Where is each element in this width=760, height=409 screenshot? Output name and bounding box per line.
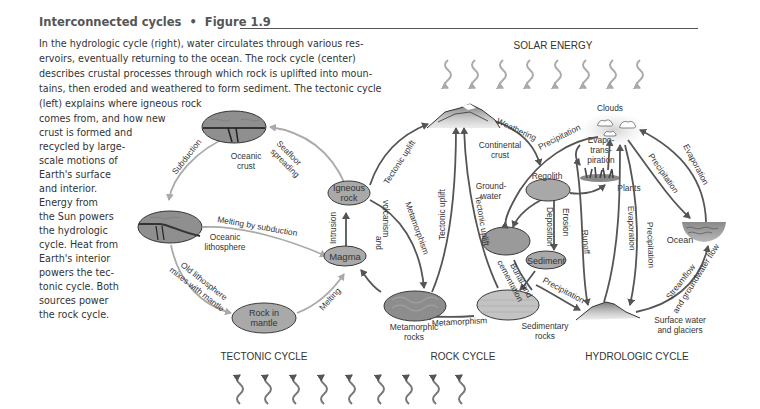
rock-in-mantle-label: mantle <box>250 318 277 328</box>
igneous-rock-label: rock <box>340 193 358 203</box>
solar-wave-arrow-icon <box>610 60 616 88</box>
hydrologic-cycle-label: HYDROLOGIC CYCLE <box>585 351 689 362</box>
groundwater-arrow <box>513 197 547 227</box>
tectonic-uplift-label-2: Tectonic uplift <box>437 189 447 240</box>
internal-heat-arrows <box>237 375 465 404</box>
solar-wave-arrow-icon <box>637 60 643 88</box>
ocean-label: Ocean <box>667 235 694 245</box>
continental-crust-label: crust <box>491 150 510 160</box>
intrusion-and-label: and <box>374 236 384 250</box>
runoff-label: Runoff <box>580 229 592 255</box>
cycles-diagram: SOLAR ENERGY TECTONIC CYCLE ROCK CYCLE H… <box>0 0 760 409</box>
subduction-label: Subduction <box>170 137 204 176</box>
rock-cycle-label: ROCK CYCLE <box>430 351 495 362</box>
tectonic-uplift-label: Tectonic uplift <box>381 138 417 187</box>
heat-wave-arrow-icon <box>237 375 243 404</box>
sediment-label: Sediment <box>527 256 566 266</box>
regolith-to-plants-arrow <box>570 185 605 194</box>
evaporation-arrow-ocean <box>640 130 706 222</box>
oceanic-crust-node <box>202 111 266 143</box>
magma-label: Magma <box>329 251 361 262</box>
clouds-label: Clouds <box>597 103 623 113</box>
precipitation-label-surface: Precipitation <box>645 222 657 269</box>
evaporation-arrow-surface <box>604 145 620 302</box>
heat-wave-arrow-icon <box>265 375 271 404</box>
heat-wave-arrow-icon <box>321 375 327 404</box>
solar-energy-arrows <box>445 60 643 88</box>
solar-wave-arrow-icon <box>527 60 533 88</box>
erosion-label: Erosion <box>561 208 571 237</box>
metamorphic-rocks-node <box>384 291 446 321</box>
solar-wave-arrow-icon <box>555 60 561 88</box>
surface-water-label: and glaciers <box>657 325 702 335</box>
oceanic-crust-label: crust <box>237 161 256 171</box>
continental-crust-label: Continental <box>479 140 522 150</box>
metamorphic-rocks-label: rocks <box>404 332 424 342</box>
solar-wave-arrow-icon <box>472 60 478 88</box>
sedimentary-rocks-label: rocks <box>535 331 555 341</box>
metamorphism-label-upper: Metamorphism <box>403 200 431 255</box>
precipitation-label-top: Precipitation <box>536 122 582 152</box>
intrusion-label: Intrusion <box>328 212 338 244</box>
oceanic-lithosphere-node <box>138 211 202 243</box>
regolith-node <box>526 179 570 201</box>
igneous-rock-label: Igneous <box>333 183 366 193</box>
metamorphic-to-magma-arrow <box>361 270 381 292</box>
rock-in-mantle-label: Rock in <box>249 308 279 318</box>
solar-energy-label: SOLAR ENERGY <box>514 40 593 51</box>
heat-wave-arrow-icon <box>406 375 412 404</box>
plants-label: Plants <box>617 183 640 193</box>
precipitation-arrow-ocean <box>628 140 690 218</box>
plants-icon <box>580 167 620 182</box>
heat-wave-arrow-icon <box>349 375 355 404</box>
oceanic-lithosphere-label: lithosphere <box>205 242 246 252</box>
metamorphism-label-lower: Metamorphism <box>432 315 488 328</box>
solar-wave-arrow-icon <box>445 60 451 88</box>
groundwater-label: Ground- <box>476 181 507 191</box>
heat-wave-arrow-icon <box>378 375 384 404</box>
weathering-label: Weathering <box>495 116 538 143</box>
oceanic-crust-label: Oceanic <box>231 151 262 161</box>
evapotranspiration-label: piration <box>587 155 615 165</box>
oceanic-lithosphere-label: Oceanic <box>210 232 241 242</box>
evaporation-label-surface: Evaporation <box>626 206 638 251</box>
heat-wave-arrow-icon <box>293 375 299 404</box>
deposition-label: Deposition <box>545 207 555 247</box>
solar-wave-arrow-icon <box>583 60 589 88</box>
heat-wave-arrow-icon <box>459 375 465 404</box>
tectonic-cycle-label: TECTONIC CYCLE <box>220 351 307 362</box>
volcanism-label: volcanism <box>381 200 391 237</box>
surface-water-label: Surface water <box>654 315 706 325</box>
mountain-continental <box>427 104 500 128</box>
heat-wave-arrow-icon <box>433 375 439 404</box>
regolith-label: Regolith <box>532 171 563 181</box>
solar-wave-arrow-icon <box>500 60 506 88</box>
sedimentary-rocks-label: Sedimentary <box>521 321 569 331</box>
